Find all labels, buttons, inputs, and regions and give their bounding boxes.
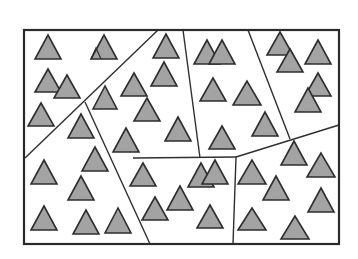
divider-line xyxy=(133,157,236,158)
partitioned-triangle-diagram xyxy=(0,0,358,259)
